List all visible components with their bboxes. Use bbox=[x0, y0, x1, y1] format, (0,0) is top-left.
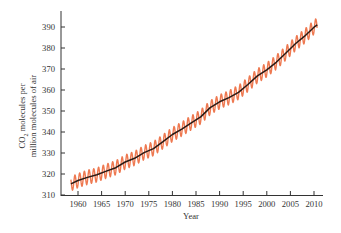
x-tick-label: 1995 bbox=[235, 199, 252, 209]
y-axis: 310320330340350360370380390 bbox=[42, 11, 65, 200]
y-axis-title-line1: CO2 molecules per bbox=[17, 83, 29, 148]
y-tick-label: 310 bbox=[42, 190, 55, 200]
plot-area bbox=[71, 19, 317, 190]
y-tick-label: 390 bbox=[42, 22, 55, 32]
y-tick-label: 340 bbox=[42, 127, 55, 137]
y-tick-label: 330 bbox=[42, 148, 55, 158]
x-tick-label: 2000 bbox=[258, 199, 275, 209]
y-tick-label: 320 bbox=[42, 169, 55, 179]
x-tick-label: 1980 bbox=[164, 199, 181, 209]
x-tick-label: 2005 bbox=[282, 199, 299, 209]
x-axis-title: Year bbox=[183, 211, 199, 221]
x-tick-label: 1960 bbox=[69, 199, 86, 209]
co2-chart: 310320330340350360370380390 196019651970… bbox=[0, 0, 341, 233]
y-tick-label: 370 bbox=[42, 64, 55, 74]
x-tick-label: 1965 bbox=[93, 199, 110, 209]
y-tick-label: 380 bbox=[42, 43, 55, 53]
annual-trend-line bbox=[71, 25, 317, 184]
y-tick-label: 350 bbox=[42, 106, 55, 116]
x-tick-label: 2010 bbox=[305, 199, 322, 209]
y-ticks: 310320330340350360370380390 bbox=[42, 22, 65, 200]
x-tick-label: 1990 bbox=[211, 199, 228, 209]
monthly-seasonal-line bbox=[71, 19, 317, 190]
x-tick-label: 1975 bbox=[140, 199, 157, 209]
x-tick-label: 1970 bbox=[117, 199, 134, 209]
y-tick-label: 360 bbox=[42, 85, 55, 95]
x-tick-label: 1985 bbox=[187, 199, 204, 209]
y-axis-title-line2: million molecules of air bbox=[28, 75, 38, 157]
y-axis-title: CO2 molecules per million molecules of a… bbox=[17, 75, 38, 157]
x-axis: 1960196519701975198019851990199520002005… bbox=[61, 191, 323, 209]
x-ticks: 1960196519701975198019851990199520002005… bbox=[69, 191, 322, 209]
